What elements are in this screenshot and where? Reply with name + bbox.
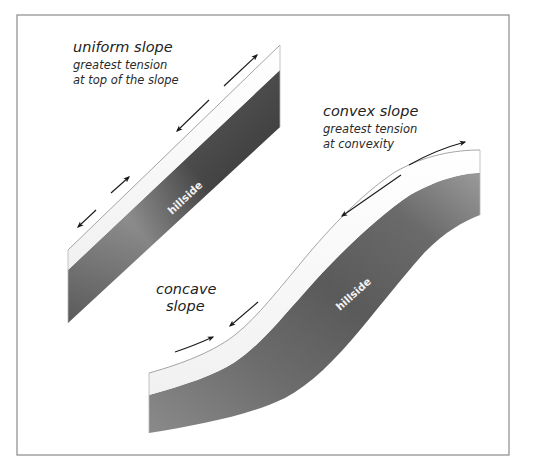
convex-slope-line1: greatest tension: [323, 122, 417, 136]
concave-slope-line2: slope: [166, 298, 205, 314]
slope-tension-diagram: hillside uniform slope greatest tension …: [0, 0, 533, 465]
uniform-arrow-upslope-bottom: [111, 177, 129, 193]
convex-slope-title: convex slope: [323, 103, 418, 119]
uniform-slope-title: uniform slope: [73, 39, 173, 55]
convex-slope-line2: at convexity: [323, 137, 394, 151]
concave-slope-line1: concave: [156, 281, 216, 297]
uniform-slope-line2: at top of the slope: [73, 73, 179, 87]
uniform-arrow-downslope-bottom: [78, 210, 96, 227]
concave-arrow-curved-upslope: [175, 337, 213, 352]
uniform-slope-line1: greatest tension: [73, 58, 167, 72]
